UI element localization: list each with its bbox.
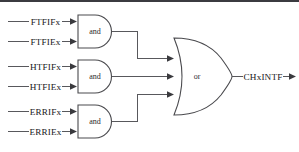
- label-htfiex: HTFIEx: [30, 82, 62, 92]
- and-gate-3-label: and: [89, 117, 101, 126]
- and-gate-1-label: and: [89, 27, 101, 36]
- logic-diagram-svg: and and: [0, 0, 299, 152]
- label-htfifx: HTFIFx: [30, 62, 61, 72]
- arrowhead-ftfiex: [70, 38, 77, 44]
- arrowhead-or-input-2: [167, 73, 174, 79]
- arrowhead-htfiex: [70, 83, 77, 89]
- label-chxintf: CHxINTF: [244, 72, 283, 82]
- logic-diagram-canvas: and and: [0, 0, 299, 152]
- and-gate-2-label: and: [89, 72, 101, 81]
- wire-and1-to-or: [112, 32, 167, 59]
- label-ftfiex: FTFIEx: [31, 37, 61, 47]
- label-errifx: ERRIFx: [30, 107, 62, 117]
- arrowhead-erriex: [70, 128, 77, 134]
- label-erriex: ERRIEx: [29, 127, 61, 137]
- label-ftfifx: FTFIFx: [31, 17, 61, 27]
- wire-and3-to-or: [112, 95, 167, 122]
- or-gate-label: or: [194, 72, 201, 81]
- or-gate-body: [174, 38, 232, 115]
- arrowhead-or-input-3: [167, 91, 174, 97]
- arrowhead-chxintf-output: [289, 73, 296, 79]
- arrowhead-ftfifx: [70, 18, 77, 24]
- arrowhead-or-input-1: [167, 55, 174, 61]
- arrowhead-htfifx: [70, 63, 77, 69]
- arrowhead-errifx: [70, 108, 77, 114]
